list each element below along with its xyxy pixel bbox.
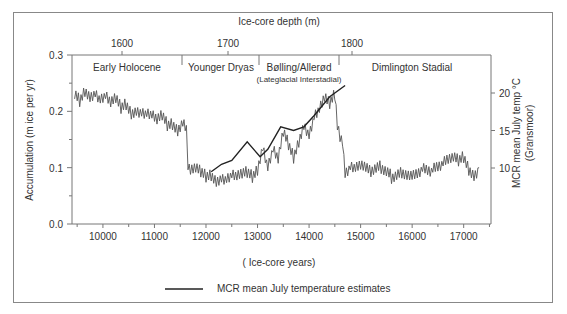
period-sublabel: (Lateglacial Interstadial) xyxy=(257,75,342,84)
x-tick-label: 12000 xyxy=(192,231,220,242)
y-tick-label: 0.3 xyxy=(49,50,63,61)
x-tick-label: 11000 xyxy=(141,231,169,242)
x-tick-label: 16000 xyxy=(398,231,426,242)
x-tick-label: 14000 xyxy=(295,231,323,242)
y-tick-label: 0.1 xyxy=(49,163,63,174)
x-tick-label: 13000 xyxy=(244,231,272,242)
period-label: Early Holocene xyxy=(93,62,161,73)
y2-tick-label: 20 xyxy=(499,88,511,99)
period-label: Younger Dryas xyxy=(188,62,254,73)
top-tick-label: 1600 xyxy=(111,38,134,49)
y2-axis-sublabel: (Gransmoor) xyxy=(524,105,535,162)
period-label: Dimlington Stadial xyxy=(372,62,453,73)
top-tick-label: 1700 xyxy=(217,38,240,49)
x-tick-label: 17000 xyxy=(450,231,478,242)
x-tick-label: 15000 xyxy=(347,231,375,242)
top-axis-label: Ice-core depth (m) xyxy=(238,16,320,27)
accumulation-line xyxy=(75,88,480,187)
chart: 0.00.10.20.31000011000120001300014000150… xyxy=(0,0,567,314)
legend-label: MCR mean July temperature estimates xyxy=(217,283,390,294)
x-tick-label: 10000 xyxy=(89,231,117,242)
period-label: Bølling/Allerød xyxy=(266,62,331,73)
y-axis-label: Accumulation (m ice per yr) xyxy=(24,79,35,201)
y-tick-label: 0.2 xyxy=(49,106,63,117)
top-tick-label: 1800 xyxy=(341,38,364,49)
y2-tick-label: 15 xyxy=(499,126,511,137)
y2-axis-label: MCR mean July temp °C xyxy=(511,78,522,188)
y2-tick-label: 10 xyxy=(499,163,511,174)
x-axis-label: ( Ice-core years) xyxy=(243,257,316,268)
y-tick-label: 0.0 xyxy=(49,219,63,230)
